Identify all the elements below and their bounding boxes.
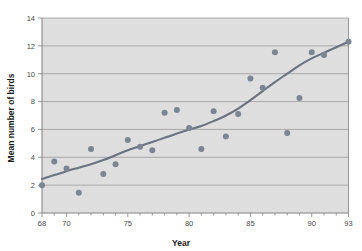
data-point: [76, 190, 82, 196]
data-point: [284, 130, 290, 136]
y-tick-label: 8: [31, 97, 35, 106]
x-tick-label: 70: [62, 219, 70, 228]
data-point: [247, 76, 253, 82]
data-point: [174, 107, 180, 113]
data-point: [39, 182, 45, 188]
scatter-chart: 68707580859093 02468101214 Year Mean num…: [0, 0, 362, 251]
data-point: [321, 52, 327, 58]
data-point: [186, 125, 192, 131]
y-tick-label: 2: [31, 181, 35, 190]
y-axis-title: Mean number of birds: [6, 73, 16, 162]
x-tick-label: 80: [185, 219, 193, 228]
y-tick-label: 0: [31, 209, 35, 218]
data-point: [88, 146, 94, 152]
data-point: [100, 171, 106, 177]
y-tick-label: 14: [27, 14, 35, 23]
data-point: [125, 137, 131, 143]
y-tick-label: 10: [27, 70, 35, 79]
data-point: [260, 85, 266, 91]
x-tick-label: 75: [124, 219, 132, 228]
data-point: [211, 108, 217, 114]
x-tick-label: 85: [246, 219, 254, 228]
data-point: [51, 158, 57, 164]
y-tick-label: 12: [27, 42, 35, 51]
data-point: [162, 110, 168, 116]
x-tick-label: 90: [308, 219, 316, 228]
data-point: [223, 133, 229, 139]
chart-container: 68707580859093 02468101214 Year Mean num…: [0, 0, 362, 251]
data-point: [64, 165, 70, 171]
data-point: [137, 144, 143, 150]
y-tick-label: 6: [31, 125, 35, 134]
data-point: [198, 146, 204, 152]
data-point: [309, 49, 315, 55]
x-tick-label: 93: [344, 219, 352, 228]
data-point: [113, 161, 119, 167]
y-tick-label: 4: [31, 153, 35, 162]
x-axis-title: Year: [172, 238, 191, 248]
data-point: [272, 49, 278, 55]
data-point: [235, 111, 241, 117]
data-point: [149, 147, 155, 153]
data-point: [296, 95, 302, 101]
x-tick-label: 68: [38, 219, 46, 228]
data-point: [346, 39, 352, 45]
